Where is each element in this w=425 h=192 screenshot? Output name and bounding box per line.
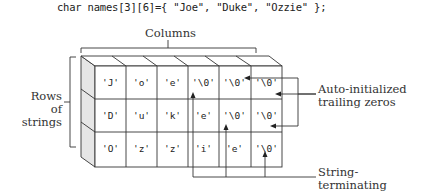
cell-0-2: 'e' <box>157 66 188 99</box>
cell-0-0: 'J' <box>95 66 126 99</box>
cell-0-4: '\0' <box>219 66 250 99</box>
cell-0-5: '\0' <box>251 66 282 99</box>
auto-init-label: Auto-initialized trailing zeros <box>318 83 407 109</box>
rows-label-line1: Rows of <box>18 90 62 116</box>
cell-0-3: '\0' <box>188 66 219 99</box>
auto-init-label-line2: trailing zeros <box>318 96 407 109</box>
char-array-diagram: char names[3][6]={ "Joe", "Duke", "Ozzie… <box>0 0 425 192</box>
columns-label: Columns <box>145 27 196 40</box>
columns-bracket <box>81 48 256 53</box>
string-term-label: String-terminating zeros <box>318 166 425 192</box>
cell-2-0: 'O' <box>95 132 126 165</box>
cell-2-2: 'z' <box>157 132 188 165</box>
cell-1-1: 'u' <box>126 99 157 132</box>
rows-label: Rows of strings <box>18 90 62 129</box>
cell-2-1: 'z' <box>126 132 157 165</box>
cell-1-0: 'D' <box>95 99 126 132</box>
cell-1-4: '\0' <box>219 99 250 132</box>
cell-1-5: '\0' <box>251 99 282 132</box>
cell-2-4: 'e' <box>219 132 250 165</box>
cell-2-5: '\0' <box>251 132 282 165</box>
rows-bracket <box>70 57 76 147</box>
rows-label-line2: strings <box>18 116 62 129</box>
cell-1-2: 'k' <box>157 99 188 132</box>
cell-1-3: 'e' <box>188 99 219 132</box>
cell-2-3: 'i' <box>188 132 219 165</box>
cell-0-1: 'o' <box>126 66 157 99</box>
string-term-label-line1: String-terminating <box>318 166 425 192</box>
left-face <box>81 56 95 167</box>
